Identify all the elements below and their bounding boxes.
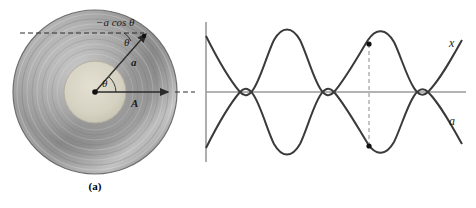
theta-inner-label: θ [102,78,107,89]
position-curve [206,30,462,96]
figure-container: −a cos θ θ a θ A (a) x a t x = xmax = A [0,0,476,208]
particle-dot [142,34,146,38]
x-max-marker-dot [366,41,371,46]
wave-plot [238,0,476,208]
disk-diagram [0,0,238,208]
theta-outer-label: θ [124,37,129,48]
amplitude-vector-label: A [131,98,138,109]
position-axis-label: x [449,37,454,49]
acceleration-curve [206,89,462,155]
projection-label: −a cos θ [96,17,135,28]
disk-center-dot [92,89,98,95]
acceleration-vector-label: a [131,57,137,68]
panel-b-waveforms: x a t x = xmax = A a = −amax (b) [238,0,476,208]
panel-a-turntable: −a cos θ θ a θ A (a) [0,0,238,208]
acceleration-axis-label: a [449,115,455,127]
a-min-marker-dot [366,143,371,148]
panel-a-caption: (a) [75,180,115,192]
